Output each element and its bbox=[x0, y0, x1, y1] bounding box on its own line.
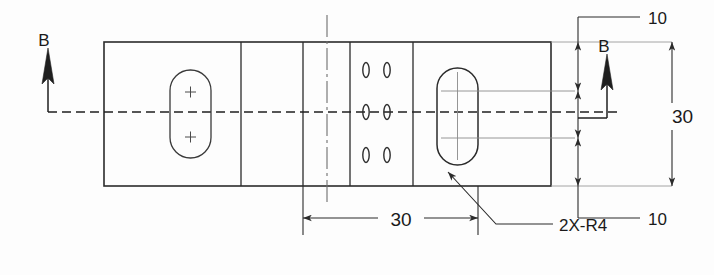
dimension-label-top-10: 10 bbox=[648, 9, 667, 28]
radius-leader-line bbox=[448, 172, 553, 224]
dimension-label-width-30: 30 bbox=[390, 209, 411, 230]
small-slot-r3c2 bbox=[384, 148, 390, 163]
extension-lines-group bbox=[551, 42, 672, 186]
radius-callout-label: 2X-R4 bbox=[559, 216, 607, 235]
small-slot-r3c1 bbox=[363, 148, 369, 163]
drawing-svg: B B 10 10 30 30 2X-R4 bbox=[0, 0, 714, 275]
left-slot-outline bbox=[170, 70, 211, 158]
section-arrow-b-left bbox=[42, 48, 54, 112]
section-label-b-right: B bbox=[598, 37, 609, 56]
small-slot-r1c2 bbox=[384, 63, 390, 78]
left-slot-center-mark-upper bbox=[185, 87, 196, 98]
small-slot-r1c1 bbox=[363, 63, 369, 78]
dimension-label-overall-30: 30 bbox=[672, 106, 693, 127]
dimension-label-bottom-10: 10 bbox=[648, 210, 667, 229]
section-label-b-left: B bbox=[38, 31, 49, 50]
engineering-drawing-canvas: B B 10 10 30 30 2X-R4 bbox=[0, 0, 714, 275]
section-arrow-b-right bbox=[578, 54, 613, 118]
centerlines-group bbox=[48, 15, 620, 205]
right-obround-slot bbox=[437, 68, 575, 165]
left-slot-center-mark-lower bbox=[185, 132, 196, 143]
left-obround-slot bbox=[170, 70, 211, 158]
radius-callout-leader bbox=[448, 172, 553, 224]
